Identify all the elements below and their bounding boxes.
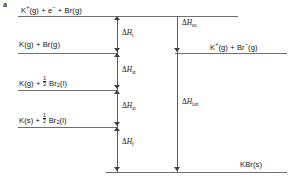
- enthalpy-label-lattice: ΔHlatt: [182, 97, 199, 106]
- enthalpy-label-atomisation-k: ΔHat: [122, 101, 136, 110]
- arrowhead-ionisation-down: [114, 48, 120, 52]
- species-label-k-br-gas: K(g) + Br(g): [19, 40, 60, 49]
- arrowhead-formation-up: [114, 127, 120, 131]
- species-label-top: K+(g) + e− + Br(g): [21, 4, 82, 15]
- enthalpy-label-electron-affinity: ΔHea: [182, 18, 197, 27]
- enthalpy-label-formation: ΔHf: [122, 137, 134, 146]
- species-label-kbr-solid: KBr(s): [240, 160, 262, 169]
- species-label-ks-half-br2: K(s) + 12 Br2(l): [19, 113, 67, 125]
- arrowhead-ionisation-up: [114, 16, 120, 20]
- energy-level-line-ks-half-br2: [18, 127, 118, 128]
- energy-level-line-ions-gas: [175, 53, 287, 54]
- arrow-stem-formation: [117, 128, 118, 172]
- species-label-ions-gas: K+(g) + Br−(g): [210, 41, 258, 52]
- arrowhead-formation-down: [114, 167, 120, 171]
- enthalpy-label-atomisation-br: ΔHat: [122, 65, 136, 74]
- born-haber-energy-level-diagram: a K+(g) + e− + Br(g) K(g) + Br(g) K(g) +…: [0, 0, 290, 181]
- arrow-stem-lattice: [177, 53, 178, 172]
- arrowhead-atomisation-br-up: [114, 53, 120, 57]
- arrowhead-atomisation-br-down: [114, 85, 120, 89]
- panel-letter: a: [3, 0, 7, 9]
- arrowhead-atomisation-k-up: [114, 90, 120, 94]
- energy-level-line-top: [18, 16, 238, 17]
- species-label-kg-half-br2: K(g) + 12 Br2(l): [19, 76, 67, 88]
- arrowhead-electron-affinity-down: [174, 48, 180, 52]
- enthalpy-label-ionisation: ΔHi: [122, 28, 134, 37]
- energy-level-line-kg-half-br2: [18, 90, 118, 91]
- energy-level-line-kbr-solid: [106, 172, 287, 173]
- arrowhead-lattice-down: [174, 167, 180, 171]
- arrowhead-atomisation-k-down: [114, 122, 120, 126]
- energy-level-line-k-br-gas: [18, 53, 118, 54]
